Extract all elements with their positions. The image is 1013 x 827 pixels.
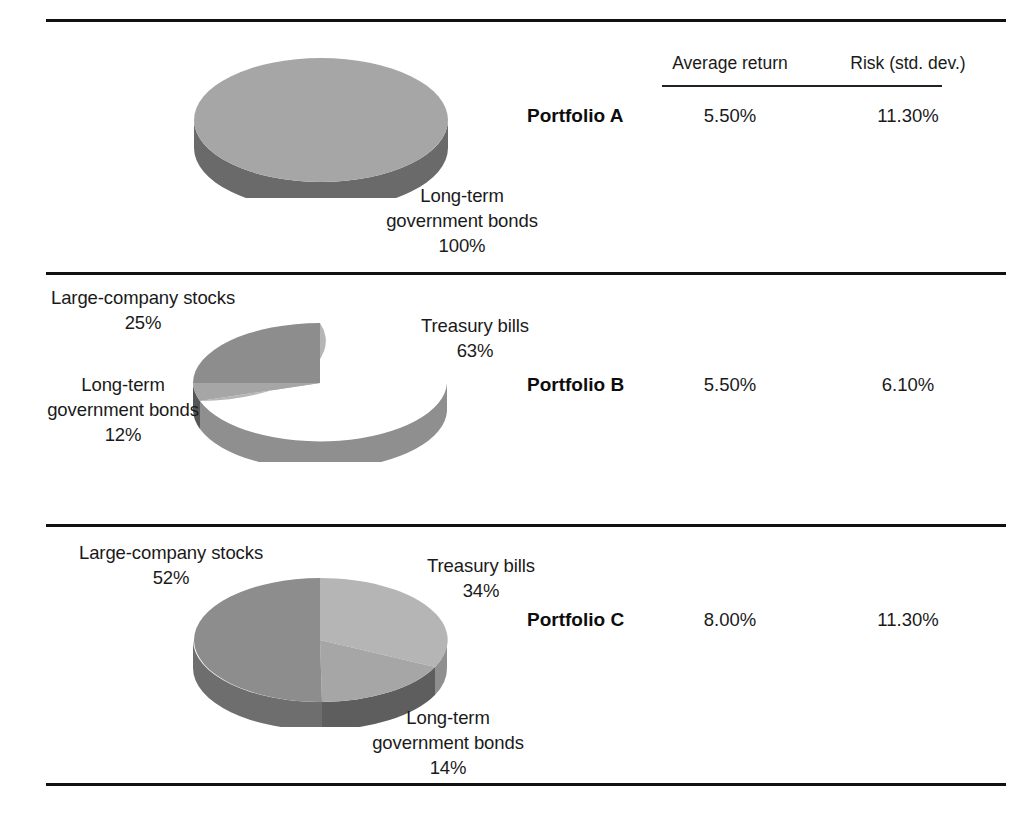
pie-a-slice-top-long-term-bonds (194, 58, 448, 182)
pie-b-label-long-term-bonds: Long-term government bonds 12% (18, 372, 228, 447)
pie-a-label-long-term-bonds: Long-term government bonds 100% (348, 183, 576, 258)
pie-b-label-large-company-stocks: Large-company stocks 25% (18, 285, 268, 335)
pie-c-label-large-company-stocks: Large-company stocks 52% (36, 540, 306, 590)
divider-top (46, 19, 1006, 22)
table-row-label-portfolio-a: Portfolio A (527, 105, 623, 127)
table-row-label-portfolio-c: Portfolio C (527, 609, 624, 631)
divider-bottom (46, 783, 1006, 786)
table-cell-average-return-portfolio-a: 5.50% (640, 105, 820, 127)
column-header-risk: Risk (std. dev.) (818, 53, 998, 74)
column-header-underline (662, 85, 942, 87)
divider-after-portfolio-b (46, 524, 1006, 527)
pie-c-label-long-term-bonds: Long-term government bonds 14% (326, 705, 570, 780)
divider-after-portfolio-a (46, 272, 1006, 275)
column-header-average-return: Average return (640, 53, 820, 74)
table-cell-average-return-portfolio-b: 5.50% (640, 374, 820, 396)
pie-c-label-treasury-bills: Treasury bills 34% (388, 553, 574, 603)
pie-b-label-treasury-bills: Treasury bills 63% (380, 313, 570, 363)
pie-chart-portfolio-a (186, 48, 456, 198)
table-row-label-portfolio-b: Portfolio B (527, 374, 624, 396)
table-cell-risk-portfolio-a: 11.30% (818, 105, 998, 127)
table-cell-risk-portfolio-c: 11.30% (818, 609, 998, 631)
table-cell-risk-portfolio-b: 6.10% (818, 374, 998, 396)
table-cell-average-return-portfolio-c: 8.00% (640, 609, 820, 631)
pie-chart-portfolio-a-svg (186, 48, 456, 198)
